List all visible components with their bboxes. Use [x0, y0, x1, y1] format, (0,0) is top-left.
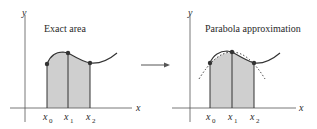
svg-text:x: x — [42, 111, 48, 122]
svg-text:x: x — [85, 111, 91, 122]
svg-text:1: 1 — [234, 117, 238, 125]
point-x0 — [208, 61, 212, 65]
tick-x1: x 1 — [227, 111, 238, 125]
tick-x1: x 1 — [63, 111, 74, 125]
left-panel: y x Exact area x 0 x 1 x 2 — [10, 7, 141, 125]
svg-text:1: 1 — [70, 117, 74, 125]
tick-x0: x 0 — [42, 111, 53, 125]
y-axis-label: y — [21, 7, 27, 18]
svg-text:x: x — [205, 111, 211, 122]
arrow-icon — [141, 63, 170, 68]
svg-text:0: 0 — [49, 117, 53, 125]
x-axis-label: x — [298, 102, 304, 113]
point-x0 — [45, 62, 49, 66]
point-x1 — [230, 50, 234, 54]
right-panel: y x Parabola approximation x 0 x 1 x 2 — [172, 7, 304, 125]
right-title: Parabola approximation — [205, 23, 301, 34]
svg-text:0: 0 — [212, 117, 216, 125]
tick-x2: x 2 — [249, 111, 260, 125]
point-x2 — [252, 61, 256, 65]
svg-text:2: 2 — [92, 117, 96, 125]
tick-x0: x 0 — [205, 111, 216, 125]
tick-x2: x 2 — [85, 111, 96, 125]
svg-text:x: x — [227, 111, 233, 122]
diagram-canvas: y x Exact area x 0 x 1 x 2 — [0, 0, 317, 129]
x-axis-label: x — [135, 102, 141, 113]
point-x2 — [88, 61, 92, 65]
svg-text:2: 2 — [256, 117, 260, 125]
svg-text:x: x — [63, 111, 69, 122]
left-title: Exact area — [44, 23, 86, 34]
svg-text:x: x — [249, 111, 255, 122]
point-x1 — [66, 51, 70, 55]
y-axis-label: y — [187, 7, 193, 18]
